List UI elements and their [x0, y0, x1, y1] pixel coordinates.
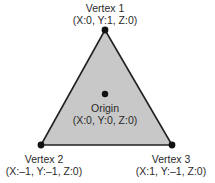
vertex-1-dot	[102, 27, 109, 34]
triangle	[41, 30, 172, 145]
vertex-2-coords: (X:–1, Y:–1, Z:0)	[6, 165, 82, 177]
vertex-1-coords: (X:0, Y:1, Z:0)	[73, 14, 138, 26]
vertex-2-dot	[38, 142, 45, 149]
origin-coords: (X:0, Y:0, Z:0)	[73, 114, 138, 126]
vertex-2-name: Vertex 2	[6, 153, 82, 165]
vertex-3-coords: (X:1, Y:–1, Z:0)	[136, 165, 206, 177]
vertex-3-name: Vertex 3	[136, 153, 206, 165]
vertex-2-label: Vertex 2 (X:–1, Y:–1, Z:0)	[6, 153, 82, 177]
origin-label: Origin (X:0, Y:0, Z:0)	[73, 102, 138, 126]
vertex-1-name: Vertex 1	[73, 2, 138, 14]
vertex-3-dot	[169, 142, 176, 149]
vertex-1-label: Vertex 1 (X:0, Y:1, Z:0)	[73, 2, 138, 26]
vertex-3-label: Vertex 3 (X:1, Y:–1, Z:0)	[136, 153, 206, 177]
origin-dot	[102, 91, 108, 97]
origin-name: Origin	[73, 102, 138, 114]
